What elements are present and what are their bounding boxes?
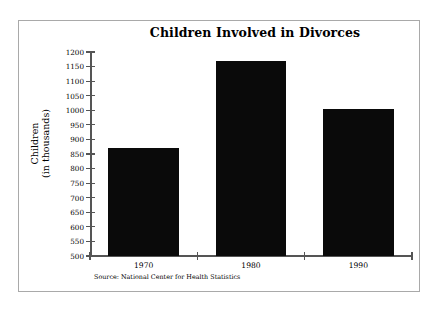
bar-1990	[323, 109, 394, 256]
x-axis-tick-label: 1980	[221, 261, 281, 270]
y-axis-title: Children (in thousands)	[30, 84, 51, 204]
x-axis-tick-start	[89, 252, 90, 260]
y-axis-tick-label: 1050	[50, 92, 84, 101]
x-axis-tick-label: 1970	[114, 261, 174, 270]
y-axis-tick-label: 850	[50, 150, 84, 159]
source-note: Source: National Center for Health Stati…	[94, 273, 240, 281]
y-axis-tick	[86, 226, 95, 227]
x-axis-tick	[304, 252, 305, 260]
y-axis-tick	[86, 197, 95, 198]
y-axis-tick-label: 1150	[50, 62, 84, 71]
y-axis-tick-label: 550	[50, 237, 84, 246]
y-axis-tick-label: 1200	[50, 48, 84, 57]
x-axis-tick-label: 1990	[328, 261, 388, 270]
y-axis-tick	[86, 212, 95, 213]
y-axis-tick-label: 950	[50, 121, 84, 130]
y-axis-tick	[86, 110, 95, 111]
y-axis-tick	[86, 139, 95, 140]
x-axis-tick-end	[411, 252, 412, 260]
y-axis-tick	[86, 51, 95, 52]
y-axis-tick	[86, 183, 95, 184]
y-axis-tick-label: 1000	[50, 106, 84, 115]
y-axis-tick-label: 650	[50, 208, 84, 217]
y-axis-tick	[86, 66, 95, 67]
bar-1980	[216, 61, 287, 256]
y-axis-tick	[86, 81, 95, 82]
y-axis-tick-label: 700	[50, 194, 84, 203]
y-axis-tick-label: 750	[50, 179, 84, 188]
y-axis-tick-label: 500	[50, 252, 84, 261]
x-axis-tick	[197, 252, 198, 260]
y-axis-title-line-2: (in thousands)	[40, 84, 51, 204]
y-axis-tick	[86, 168, 95, 169]
y-axis-tick-label: 1100	[50, 77, 84, 86]
y-axis-tick	[86, 241, 95, 242]
y-axis-tick-label: 800	[50, 164, 84, 173]
y-axis-tick	[86, 124, 95, 125]
y-axis-tick	[86, 153, 95, 154]
y-axis-tick-label: 900	[50, 135, 84, 144]
y-axis-title-line-1: Children	[30, 84, 41, 204]
y-axis-tick	[86, 95, 95, 96]
bar-1970	[108, 148, 179, 256]
chart-screenshot: Children Involved in Divorces Children (…	[0, 0, 438, 311]
y-axis-tick-label: 600	[50, 223, 84, 232]
chart-title: Children Involved in Divorces	[95, 25, 415, 40]
